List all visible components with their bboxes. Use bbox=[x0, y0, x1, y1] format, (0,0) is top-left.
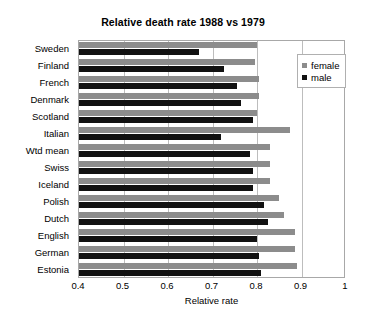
bar-group bbox=[79, 109, 344, 126]
bar-female bbox=[79, 59, 255, 65]
bar-female bbox=[79, 144, 270, 150]
y-axis-label: French bbox=[39, 78, 69, 88]
y-axis-label: Sweden bbox=[35, 44, 69, 54]
bar-female bbox=[79, 93, 259, 99]
chart-legend: femalemale bbox=[297, 54, 346, 88]
bar-female bbox=[79, 42, 257, 48]
x-axis-tick-label: 1 bbox=[342, 280, 347, 291]
y-axis-label: Iceland bbox=[38, 180, 69, 190]
y-axis-label: Finland bbox=[38, 61, 69, 71]
y-axis-label: Swiss bbox=[44, 163, 69, 173]
chart-container: Relative death rate 1988 vs 1979 SwedenF… bbox=[0, 0, 366, 331]
bar-male bbox=[79, 100, 241, 106]
y-axis-label: Scotland bbox=[32, 112, 69, 122]
bar-male bbox=[79, 236, 257, 242]
x-axis-tick-labels: 0.40.50.60.70.80.91 bbox=[0, 280, 366, 294]
x-axis-tick-label: 0.6 bbox=[160, 280, 173, 291]
bar-group bbox=[79, 177, 344, 194]
chart-title: Relative death rate 1988 vs 1979 bbox=[0, 16, 366, 28]
bar-female bbox=[79, 178, 270, 184]
bar-female bbox=[79, 212, 284, 218]
x-axis-tick-label: 0.5 bbox=[116, 280, 129, 291]
bar-female bbox=[79, 76, 259, 82]
bar-group bbox=[79, 211, 344, 228]
bar-male bbox=[79, 117, 253, 123]
y-axis-label: Polish bbox=[43, 197, 69, 207]
x-axis-tick-label: 0.7 bbox=[205, 280, 218, 291]
y-axis-label: Wtd mean bbox=[26, 146, 69, 156]
bar-female bbox=[79, 195, 279, 201]
bar-group bbox=[79, 228, 344, 245]
bar-group bbox=[79, 245, 344, 262]
bar-male bbox=[79, 185, 253, 191]
y-axis-label: German bbox=[35, 248, 69, 258]
bar-male bbox=[79, 270, 261, 276]
y-axis-label: Denmark bbox=[30, 95, 69, 105]
bar-female bbox=[79, 127, 290, 133]
bar-female bbox=[79, 161, 270, 167]
x-axis-tick-label: 0.8 bbox=[249, 280, 262, 291]
y-axis-label: English bbox=[38, 231, 69, 241]
bar-male bbox=[79, 66, 224, 72]
bar-female bbox=[79, 229, 295, 235]
y-axis-label: Dutch bbox=[44, 214, 69, 224]
x-axis-tick-label: 0.4 bbox=[71, 280, 84, 291]
x-axis-tick-label: 0.9 bbox=[294, 280, 307, 291]
legend-item: male bbox=[302, 71, 340, 83]
y-axis-label: Estonia bbox=[37, 265, 69, 275]
bar-female bbox=[79, 263, 297, 269]
legend-label: female bbox=[311, 60, 340, 71]
y-axis-label: Italian bbox=[44, 129, 69, 139]
bar-male bbox=[79, 253, 259, 259]
bar-male bbox=[79, 134, 221, 140]
bar-male bbox=[79, 83, 237, 89]
bar-male bbox=[79, 49, 199, 55]
bar-male bbox=[79, 219, 268, 225]
bar-group bbox=[79, 126, 344, 143]
legend-swatch-icon bbox=[302, 75, 307, 80]
bar-female bbox=[79, 246, 295, 252]
bar-male bbox=[79, 151, 250, 157]
bar-group bbox=[79, 194, 344, 211]
bar-male bbox=[79, 168, 253, 174]
legend-label: male bbox=[311, 72, 332, 83]
legend-swatch-icon bbox=[302, 63, 307, 68]
bar-group bbox=[79, 92, 344, 109]
bar-female bbox=[79, 110, 257, 116]
legend-item: female bbox=[302, 59, 340, 71]
x-axis-title: Relative rate bbox=[78, 295, 345, 306]
bar-group bbox=[79, 143, 344, 160]
y-axis-category-labels: SwedenFinlandFrenchDenmarkScotlandItalia… bbox=[0, 40, 74, 278]
bar-group bbox=[79, 160, 344, 177]
bar-group bbox=[79, 262, 344, 278]
bar-male bbox=[79, 202, 264, 208]
